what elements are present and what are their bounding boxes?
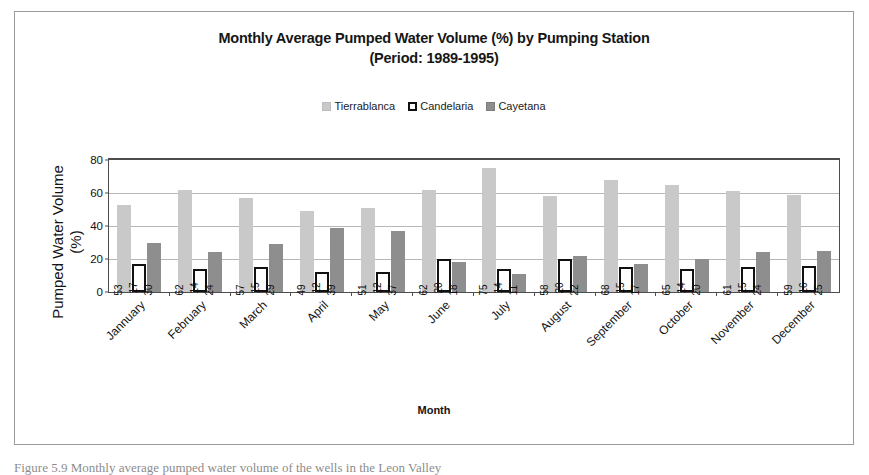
x-axis-label-cell: July (473, 292, 534, 372)
bar-tierrablanca[interactable]: 51 (361, 208, 375, 292)
bar-group: 611524 (717, 160, 778, 292)
bar-group: 571529 (231, 160, 292, 292)
figure-caption: Figure 5.9 Monthly average pumped water … (14, 460, 854, 475)
bar-tierrablanca[interactable]: 49 (300, 211, 314, 292)
bar-tierrablanca[interactable]: 59 (787, 195, 801, 292)
x-axis-tick-labels: JannuaryFebruaryMarchAprilMayJuneJulyAug… (108, 292, 838, 372)
bar-cayetana[interactable]: 24 (756, 252, 770, 292)
legend-entry-candelaria: Candelaria (408, 100, 473, 112)
x-axis-label-cell: October (655, 292, 716, 372)
bar-cayetana[interactable]: 20 (695, 259, 709, 292)
x-axis-label-cell: September (595, 292, 656, 372)
bar-cayetana[interactable]: 18 (452, 262, 466, 292)
legend-entry-cayetana: Cayetana (486, 100, 545, 112)
x-axis-label-cell: August (534, 292, 595, 372)
legend-swatch-candelaria-icon (408, 102, 417, 111)
x-axis-tick-label: Jannuary (103, 298, 148, 343)
bar-cayetana[interactable]: 39 (330, 228, 344, 292)
bar-tierrablanca[interactable]: 75 (482, 168, 496, 292)
bar-cayetana[interactable]: 37 (391, 231, 405, 292)
x-axis-label-cell: June (412, 292, 473, 372)
x-axis-tick-label: April (304, 298, 331, 325)
x-axis-tick-label: June (424, 298, 452, 326)
plot-area: 020406080 531730621424571529491239511237… (108, 158, 840, 293)
x-axis-tick-label: July (488, 298, 513, 323)
legend-entry-tierrablanca: Tierrablanca (322, 100, 395, 112)
x-axis-tick-label: May (366, 298, 392, 324)
bar-group: 681517 (596, 160, 657, 292)
y-axis-title-line-1: Pumped Water Volume (49, 165, 66, 319)
bar-group: 751411 (474, 160, 535, 292)
chart-title-line-2: (Period: 1989-1995) (15, 48, 853, 68)
y-axis-tick-label: 80 (90, 154, 103, 166)
x-axis-label-cell: Jannuary (108, 292, 169, 372)
legend-swatch-cayetana-icon (486, 102, 495, 111)
legend-label-tierrablanca: Tierrablanca (334, 100, 395, 112)
x-axis-tick-label: August (538, 298, 574, 334)
chart-legend: Tierrablanca Candelaria Cayetana (15, 100, 853, 112)
legend-label-cayetana: Cayetana (498, 100, 545, 112)
x-axis-label-cell: April (290, 292, 351, 372)
chart-title-line-1: Monthly Average Pumped Water Volume (%) … (218, 30, 649, 46)
y-axis-title: Pumped Water Volume (%) (49, 127, 85, 357)
bar-group: 582022 (535, 160, 596, 292)
x-axis-label-cell: March (230, 292, 291, 372)
bar-group: 531730 (109, 160, 170, 292)
bar-group: 491239 (291, 160, 352, 292)
bar-group: 591625 (778, 160, 839, 292)
bar-tierrablanca[interactable]: 58 (543, 196, 557, 292)
bar-group: 511237 (352, 160, 413, 292)
bar-groups: 5317306214245715294912395112376220187514… (109, 160, 839, 292)
bar-tierrablanca[interactable]: 57 (239, 198, 253, 292)
bar-group: 651420 (656, 160, 717, 292)
bar-tierrablanca[interactable]: 65 (665, 185, 679, 292)
x-axis-label-cell: February (169, 292, 230, 372)
bar-cayetana[interactable]: 30 (147, 243, 161, 293)
y-axis-tick-label: 60 (90, 187, 103, 199)
bar-tierrablanca[interactable]: 68 (604, 180, 618, 292)
y-axis-tick-label: 0 (97, 286, 103, 298)
x-axis-label-cell: November (716, 292, 777, 372)
chart-title: Monthly Average Pumped Water Volume (%) … (15, 28, 853, 68)
x-axis-label-cell: May (351, 292, 412, 372)
bar-cayetana[interactable]: 25 (817, 251, 831, 292)
x-axis-tick-label: February (165, 298, 209, 342)
y-axis-tick-label: 20 (90, 253, 103, 265)
bar-group: 622018 (413, 160, 474, 292)
legend-swatch-tierrablanca-icon (322, 102, 331, 111)
bar-group: 621424 (170, 160, 231, 292)
x-axis-tick-label: October (656, 298, 696, 338)
bar-cayetana[interactable]: 29 (269, 244, 283, 292)
bar-cayetana[interactable]: 24 (208, 252, 222, 292)
x-axis-label-cell: December (777, 292, 838, 372)
legend-label-candelaria: Candelaria (420, 100, 473, 112)
x-axis-tick-label: March (236, 298, 269, 331)
x-axis-title: Month (15, 404, 853, 416)
bar-cayetana[interactable]: 22 (573, 256, 587, 292)
chart-figure: Monthly Average Pumped Water Volume (%) … (14, 11, 854, 445)
bar-tierrablanca[interactable]: 62 (178, 190, 192, 292)
bar-tierrablanca[interactable]: 61 (726, 191, 740, 292)
y-axis-title-line-2: (%) (67, 127, 85, 357)
bar-cayetana[interactable]: 11 (512, 274, 526, 292)
y-axis-tick-label: 40 (90, 220, 103, 232)
bar-cayetana[interactable]: 17 (634, 264, 648, 292)
bar-tierrablanca[interactable]: 62 (422, 190, 436, 292)
bar-tierrablanca[interactable]: 53 (117, 205, 131, 292)
